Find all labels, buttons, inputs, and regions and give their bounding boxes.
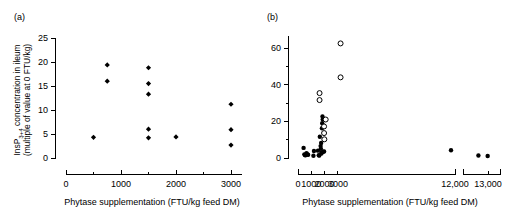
panel-b-x-axis-segment-1 (298, 169, 455, 175)
panel-a-ytick-25: 25 (38, 33, 48, 43)
panel-b-x-major-ticks-seg1 (311, 171, 338, 175)
panel-a-ytick-0: 0 (43, 153, 48, 163)
data-point-marker (322, 124, 327, 129)
data-point-marker (105, 62, 110, 67)
panel-a-plot: (a) InsP3+4 concentration in ileum (mult… (0, 0, 257, 215)
panel-b-xtick-3000: 3000 (328, 179, 348, 189)
data-point-marker (449, 148, 453, 152)
panel-a-ytick-20: 20 (38, 57, 48, 67)
panel-a-xtick-0: 0 (63, 179, 68, 189)
data-point-marker (338, 41, 343, 46)
data-point-marker (322, 149, 326, 153)
panel-a-ytick-15: 15 (38, 81, 48, 91)
panel-b-xtick-12000: 12,000 (441, 179, 469, 189)
panel-a-label: (a) (14, 12, 25, 22)
panel-b-ytick-40: 40 (271, 80, 281, 90)
panel-b-ytick-60: 60 (271, 43, 281, 53)
panel-b-ytick-20: 20 (271, 116, 281, 126)
panel-a-x-axis-title: Phytase supplementation (FTU/kg feed DM) (64, 197, 240, 207)
data-point-marker (476, 153, 480, 157)
data-point-marker (306, 153, 310, 157)
panel-a-xtick-1000: 1000 (111, 179, 131, 189)
panel-b-xtick-0: 0 (295, 179, 300, 189)
data-point-marker (485, 154, 489, 158)
panel-b: (b) 0 20 40 60 0 1000 2000 3000 12,000 1… (257, 0, 514, 215)
data-point-marker (91, 135, 96, 140)
data-point-marker (146, 92, 151, 97)
data-point-marker (105, 79, 110, 84)
data-point-marker (323, 117, 328, 122)
ylabel-ins: InsP (12, 138, 22, 155)
panel-a-xtick-3000: 3000 (221, 179, 241, 189)
panel-b-ytick-0: 0 (276, 153, 281, 163)
data-point-marker (228, 142, 233, 147)
data-point-marker (228, 102, 233, 107)
data-point-marker (228, 127, 233, 132)
panel-b-label: (b) (267, 12, 278, 22)
data-point-marker (146, 127, 151, 132)
data-point-marker (301, 146, 305, 150)
panel-b-data-markers (301, 41, 489, 158)
panel-b-x-axis-title: Phytase supplementation (FTU/kg feed DM) (302, 197, 478, 207)
data-point-marker (146, 65, 151, 70)
panel-a-ytick-5: 5 (43, 129, 48, 139)
figure-container: (a) InsP3+4 concentration in ileum (mult… (0, 0, 514, 215)
panel-a-y-ticks (51, 38, 56, 158)
ylabel-line2: (multiple of value at 0 FTU/kg) (22, 44, 32, 156)
data-point-marker (317, 91, 322, 96)
data-point-marker (312, 149, 316, 153)
panel-a-ytick-10: 10 (38, 105, 48, 115)
data-point-marker (318, 135, 322, 139)
ylabel-rest: concentration in ileum (12, 44, 22, 128)
data-point-marker (338, 75, 343, 80)
data-point-marker (146, 81, 151, 86)
panel-a-y-axis-label: InsP3+4 concentration in ileum (multiple… (12, 44, 32, 156)
data-point-marker (317, 98, 322, 103)
panel-a-data-markers (91, 62, 234, 147)
data-point-marker (322, 131, 327, 136)
panel-b-xtick-13000: 13,000 (474, 179, 502, 189)
panel-a-xtick-2000: 2000 (166, 179, 186, 189)
panel-b-x-axis-segment-2 (463, 169, 500, 175)
data-point-marker (173, 134, 178, 139)
panel-a: (a) InsP3+4 concentration in ileum (mult… (0, 0, 257, 215)
data-point-marker (311, 154, 315, 158)
data-point-marker (322, 137, 327, 142)
panel-b-plot: (b) 0 20 40 60 0 1000 2000 3000 12,000 1… (257, 0, 514, 215)
data-point-marker (146, 135, 151, 140)
